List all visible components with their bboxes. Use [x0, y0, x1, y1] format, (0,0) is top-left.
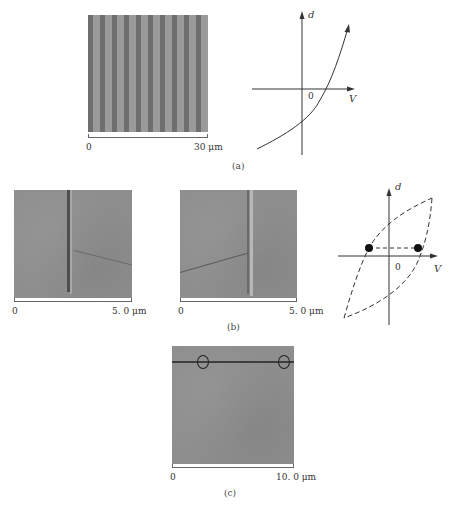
caption-c: (c)	[224, 488, 236, 498]
scratch-line	[180, 253, 247, 273]
scale-bar-c	[172, 467, 294, 468]
scale-end-c: 10. 0 μm	[276, 472, 316, 482]
y-axis-label-a: d	[308, 9, 314, 20]
scale-start-c: 0	[170, 472, 176, 482]
scale-start-b2: 0	[178, 306, 184, 316]
line-scan	[172, 361, 294, 363]
scale-bar-b2	[180, 301, 297, 302]
afm-image-b1	[14, 190, 132, 298]
circle-marker-1	[197, 355, 209, 369]
caption-a: (a)	[232, 161, 244, 171]
scale-bar-a	[88, 137, 208, 138]
hysteresis-graph-b	[330, 175, 454, 335]
origin-label-b: 0	[395, 262, 401, 272]
scale-bar-b1	[14, 301, 132, 302]
y-axis-label-b: d	[395, 181, 401, 192]
domain-wall-shadow	[247, 190, 249, 294]
scale-start-b1: 0	[12, 306, 18, 316]
domain-wall-highlight	[70, 190, 72, 294]
dv-graph-a	[240, 10, 370, 160]
scale-end-a: 30 μm	[194, 142, 223, 152]
afm-image-b2	[180, 190, 297, 298]
x-axis-label-b: V	[434, 263, 441, 274]
afm-image-a	[88, 15, 208, 132]
afm-image-c	[172, 346, 294, 464]
x-axis-label-a: V	[349, 93, 356, 104]
scale-start-a: 0	[86, 142, 92, 152]
scale-end-b1: 5. 0 μm	[112, 306, 146, 316]
scale-end-b2: 5. 0 μm	[289, 306, 323, 316]
origin-label-a: 0	[308, 91, 314, 101]
circle-marker-2	[278, 355, 290, 369]
scratch-line	[74, 250, 132, 268]
caption-b: (b)	[227, 322, 240, 332]
domain-wall-bright	[250, 190, 253, 296]
